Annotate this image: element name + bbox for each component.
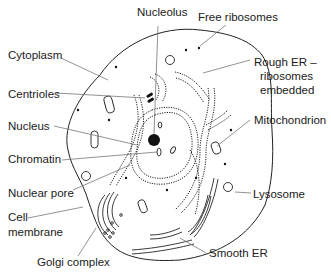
label-cell-membrane-1: Cell bbox=[8, 211, 28, 223]
label-mitochondrion: Mitochondrion bbox=[254, 114, 326, 126]
label-rough-er-3: embedded bbox=[260, 84, 314, 96]
label-free-ribosomes: Free ribosomes bbox=[198, 11, 278, 23]
label-golgi-complex: Golgi complex bbox=[37, 256, 110, 268]
label-nucleolus: Nucleolus bbox=[137, 6, 188, 18]
label-nucleus: Nucleus bbox=[8, 120, 50, 132]
label-chromatin: Chromatin bbox=[8, 153, 61, 165]
label-nuclear-pore: Nuclear pore bbox=[8, 187, 74, 199]
label-smooth-er: Smooth ER bbox=[209, 247, 268, 259]
label-lysosome: Lysosome bbox=[253, 188, 305, 200]
label-rough-er-2: ribosomes bbox=[260, 70, 313, 82]
label-cell-membrane-2: membrane bbox=[8, 226, 63, 238]
cell-diagram: Nucleolus Free ribosomes Cytoplasm Rough… bbox=[0, 0, 331, 275]
label-rough-er-1: Rough ER – bbox=[254, 56, 317, 68]
nucleolus bbox=[148, 134, 160, 146]
label-centrioles: Centrioles bbox=[8, 88, 60, 100]
label-cytoplasm: Cytoplasm bbox=[8, 49, 62, 61]
